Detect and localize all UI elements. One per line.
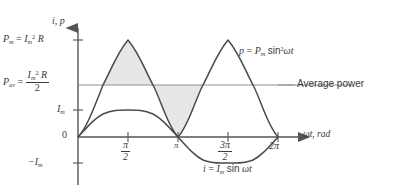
y-tick-label-imin: −Im [28,156,43,168]
x-axis-label: ωt, rad [303,129,330,139]
power-curve-label: p = Pm sin2ωt [239,45,293,57]
current-curve-label: i = Im sin ωt [203,163,252,175]
power-waveform-chart [0,0,393,195]
y-tick-label-imax: Im [57,103,65,115]
origin-label: 0 [62,129,67,140]
x-tick-label-two-pi: 2π [269,140,279,151]
y-tick-label-pav: Pav = Im2 R 2 [3,70,49,93]
y-tick-label-pmax: Pm = Im2 R [3,33,44,45]
average-power-label: Average power [297,78,364,89]
x-tick-label-pi-over-2: π2 [121,140,130,162]
shaded-region-above-average [103,40,153,85]
x-tick-label-pi: π [174,140,179,150]
y-axis-label: i, p [52,15,65,26]
shaded-region-below-average [153,85,203,137]
x-tick-label-three-pi-over-2: 3π2 [218,140,232,162]
